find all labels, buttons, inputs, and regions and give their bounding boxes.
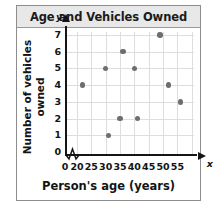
x-tick-label: 40 — [128, 162, 141, 172]
gridline-horizontal — [65, 119, 194, 120]
y-axis-arrow — [62, 14, 70, 22]
x-axis-arrow — [198, 152, 206, 160]
gridline-vertical — [91, 32, 92, 155]
gridline-vertical — [177, 32, 178, 155]
x-tick-label: 45 — [142, 162, 155, 172]
x-tick-label: 30 — [99, 162, 112, 172]
chart-figure: Age and Vehicles Owned Number of vehicle… — [16, 5, 201, 201]
data-point — [135, 116, 140, 121]
gridline-horizontal — [65, 135, 194, 136]
x-tick-label: 55 — [171, 162, 184, 172]
gridline-vertical — [77, 32, 78, 155]
y-axis-title: Number of vehicles owned — [19, 32, 49, 162]
data-point — [157, 32, 162, 37]
data-point — [120, 49, 125, 54]
x-tick-label: 25 — [85, 162, 98, 172]
gridline-vertical — [134, 32, 135, 155]
y-tick-label: 5 — [54, 64, 61, 74]
y-tick-label: 1 — [54, 131, 61, 141]
gridline-vertical — [163, 32, 164, 155]
y-axis-title-text: Number of vehicles owned — [21, 33, 47, 161]
x-tick-label: 35 — [113, 162, 126, 172]
axis-break-icon — [66, 148, 82, 160]
y-tick-label: 0 — [54, 147, 61, 157]
data-point — [178, 99, 183, 104]
x-axis-line — [65, 154, 197, 156]
x-tick-label: 50 — [156, 162, 169, 172]
gridline-vertical — [149, 32, 150, 155]
y-tick-label: 7 — [54, 30, 61, 40]
y-axis-variable-label: y — [56, 11, 62, 22]
gridline-horizontal — [65, 35, 194, 36]
y-axis-line — [65, 26, 67, 155]
data-point — [166, 82, 171, 87]
data-point — [106, 133, 111, 138]
gridline-vertical — [192, 32, 193, 155]
y-tick-label: 4 — [54, 80, 61, 90]
chart-title-banner: Age and Vehicles Owned — [17, 6, 200, 28]
x-axis-variable-label: x — [207, 158, 213, 169]
data-point — [103, 66, 108, 71]
x-tick-label: 0 — [62, 162, 69, 172]
chart-title: Age and Vehicles Owned — [30, 10, 187, 24]
y-tick-label: 6 — [54, 47, 61, 57]
data-point — [80, 82, 85, 87]
y-tick-label: 2 — [54, 114, 61, 124]
gridline-horizontal — [65, 102, 194, 103]
x-tick-label: 20 — [70, 162, 83, 172]
y-tick-label: 3 — [54, 97, 61, 107]
data-point — [117, 116, 122, 121]
x-axis-title: Person's age (years) — [17, 179, 200, 193]
gridline-horizontal — [65, 52, 194, 53]
gridline-horizontal — [65, 68, 194, 69]
data-point — [132, 66, 137, 71]
plot-area: x y 01234567 02025303540455055 — [65, 32, 194, 155]
